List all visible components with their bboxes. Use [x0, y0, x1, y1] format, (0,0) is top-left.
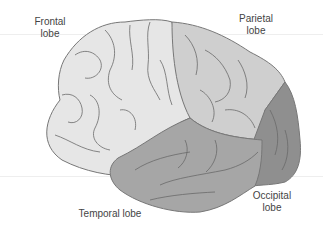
- parietal-lobe-label-line2: lobe: [232, 25, 280, 37]
- temporal-lobe-label: Temporal lobe: [70, 208, 150, 220]
- parietal-lobe-label: Parietal lobe: [232, 13, 280, 37]
- temporal-lobe-label-text: Temporal lobe: [70, 208, 150, 220]
- frontal-lobe-label-line2: lobe: [28, 28, 72, 40]
- frontal-lobe-label: Frontal lobe: [28, 16, 72, 40]
- parietal-lobe-label-line1: Parietal: [232, 13, 280, 25]
- occipital-lobe-label-line1: Occipital: [248, 190, 296, 202]
- occipital-lobe-label-line2: lobe: [248, 202, 296, 214]
- frontal-lobe-label-line1: Frontal: [28, 16, 72, 28]
- occipital-lobe-label: Occipital lobe: [248, 190, 296, 214]
- brain-lobes-diagram: Frontal lobe Parietal lobe Temporal lobe…: [0, 0, 323, 230]
